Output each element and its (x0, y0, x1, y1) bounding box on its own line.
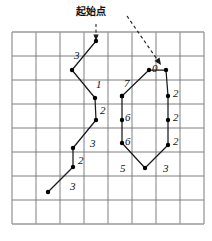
left-chain-edge-label: 1 (96, 79, 102, 90)
right-chain-edge-label: 0 (152, 63, 158, 74)
left-chain-vertex (94, 39, 98, 43)
grid (12, 32, 204, 224)
right-chain-edge-label: 3 (163, 163, 169, 174)
right-chain-edge-label: 6 (125, 136, 131, 147)
left-chain-edge-label: 3 (74, 50, 80, 61)
left-chain-vertex (93, 96, 97, 100)
right-chain-vertex (143, 166, 147, 170)
grid-path-figure (0, 0, 212, 241)
left-chain-vertex (46, 190, 50, 194)
left-chain-edge-label: 3 (70, 181, 76, 192)
right-chain-edge-label: 5 (120, 163, 126, 174)
left-chain-edge-label: 3 (90, 138, 96, 149)
left-chain-vertex (94, 118, 98, 122)
right-chain-edge-label: 2 (173, 112, 179, 123)
right-chain-vertex (120, 94, 124, 98)
right-chain-edge-label: 2 (173, 136, 179, 147)
diagram-canvas: 起始点 312323702223566 (0, 0, 212, 241)
right-chain-edge-label: 7 (124, 78, 130, 89)
right-chain-edge-label: 6 (125, 112, 131, 123)
right-chain-vertex (120, 141, 124, 145)
left-chain-vertex (70, 68, 74, 72)
right-chain-vertex (166, 94, 170, 98)
right-chain-vertex (166, 118, 170, 122)
right-chain-vertex (147, 68, 151, 72)
left-polyline (46, 39, 98, 194)
right-chain-vertex (166, 143, 170, 147)
left-chain-edge-label: 2 (100, 105, 106, 116)
right-chain-vertex (120, 118, 124, 122)
right-chain-vertex (164, 68, 168, 72)
left-chain-vertex (71, 165, 75, 169)
left-chain-edge-label: 2 (78, 155, 84, 166)
left-chain-vertex (71, 146, 75, 150)
right-chain-edge-label: 2 (173, 88, 179, 99)
left-chain-path (48, 41, 96, 192)
